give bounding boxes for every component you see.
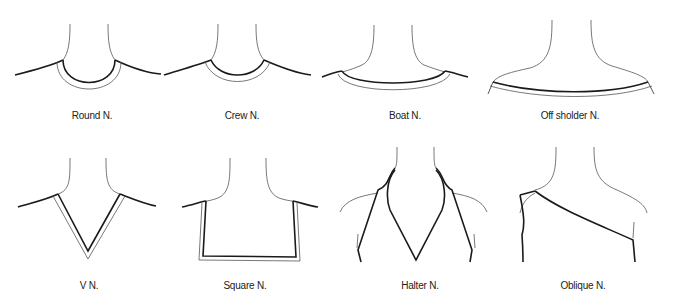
boat-neck-drawing: [322, 25, 468, 90]
off-shoulder-neck-drawing: [488, 20, 654, 97]
label-crew-neck: Crew N.: [225, 110, 260, 121]
label-off-shoulder-neck: Off sholder N.: [541, 110, 600, 121]
label-oblique-neck: Oblique N.: [560, 280, 605, 291]
label-round-neck: Round N.: [72, 110, 113, 121]
label-square-neck: Square N.: [223, 280, 266, 291]
halter-neck-drawing: [340, 147, 487, 262]
round-neck-drawing: [15, 24, 161, 89]
oblique-neck-drawing: [520, 147, 647, 262]
neckline-diagram: [0, 0, 674, 297]
label-boat-neck: Boat N.: [389, 110, 421, 121]
v-neck-drawing: [18, 158, 156, 259]
label-halter-neck: Halter N.: [401, 280, 439, 291]
label-v-neck: V N.: [80, 280, 99, 291]
crew-neck-drawing: [164, 24, 311, 82]
square-neck-drawing: [182, 158, 318, 261]
